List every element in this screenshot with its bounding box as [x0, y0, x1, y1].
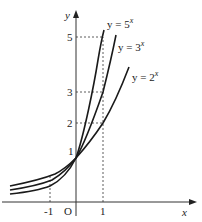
label-2-exp: x [154, 69, 159, 78]
curve-3-pow-x [10, 35, 116, 190]
origin-label: O [64, 205, 72, 217]
y-tick-3: 3 [67, 86, 73, 98]
x-tick-1: 1 [100, 205, 106, 217]
axes [2, 10, 197, 216]
label-3-exp: x [140, 39, 145, 48]
label-5-main: y = 5 [107, 18, 130, 30]
curve-5-pow-x [10, 30, 104, 194]
y-axis-label: y [64, 9, 70, 21]
label-3-pow-x: y = 3x [118, 39, 145, 53]
label-2-pow-x: y = 2x [132, 69, 159, 83]
curves [10, 30, 129, 194]
svg-text:y = 3x: y = 3x [118, 39, 145, 53]
x-axis-label: x [181, 206, 187, 218]
y-tick-1: 1 [68, 145, 74, 157]
label-3-main: y = 3 [118, 41, 141, 53]
svg-text:y = 5x: y = 5x [107, 16, 134, 30]
label-5-exp: x [129, 16, 134, 25]
y-tick-5: 5 [67, 31, 73, 43]
label-5-pow-x: y = 5x [107, 16, 134, 30]
exponential-functions-diagram: y x O -1 1 1 2 3 5 y = 5x y = 3x y = 2x [0, 0, 202, 222]
label-2-main: y = 2 [132, 71, 155, 83]
y-tick-2: 2 [67, 117, 73, 129]
y-axis-arrow-icon [73, 10, 79, 18]
svg-text:y = 2x: y = 2x [132, 69, 159, 83]
x-tick-neg1: -1 [44, 205, 53, 217]
x-axis-arrow-icon [189, 199, 197, 205]
